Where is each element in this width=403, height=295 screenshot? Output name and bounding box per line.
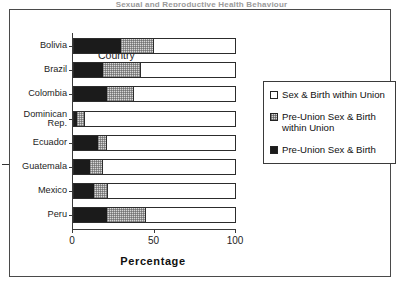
legend-item[interactable]: Pre-Union Sex & Birth within Union <box>270 111 390 133</box>
bar-segment-pre-union-sex-and-birth <box>74 184 94 198</box>
category-label: Dominican Rep. <box>15 109 67 128</box>
bar-row[interactable]: Bolivia <box>73 38 236 54</box>
stacked-bar[interactable] <box>73 135 236 151</box>
legend-swatch-icon <box>270 91 278 99</box>
bar-row[interactable]: Colombia <box>73 86 236 102</box>
category-label: Colombia <box>28 90 67 100</box>
x-tick-label: 100 <box>227 235 244 246</box>
bar-row[interactable]: Peru <box>73 207 236 223</box>
x-tick-label: 50 <box>148 235 159 246</box>
x-axis-title: Percentage <box>120 255 185 267</box>
stacked-bar[interactable] <box>73 159 236 175</box>
legend-label: Pre-Union Sex & Birth within Union <box>282 111 376 133</box>
chart-frame: Country BoliviaBrazilColombiaDominican R… <box>9 9 391 277</box>
stacked-bar[interactable] <box>73 86 236 102</box>
bar-segment-pre-union-sex-and-birth <box>74 160 90 174</box>
category-label: Ecuador <box>33 138 67 148</box>
bar-segment-pre-union-sex-and-birth-within-union <box>94 184 109 198</box>
bar-segment-pre-union-sex-and-birth-within-union <box>107 208 146 222</box>
stacked-bar[interactable] <box>73 207 236 223</box>
legend-swatch-icon <box>270 113 278 121</box>
bar-segment-pre-union-sex-and-birth-within-union <box>107 87 135 101</box>
stacked-bar[interactable] <box>73 111 236 127</box>
x-tick-label: 0 <box>69 235 75 246</box>
bar-segment-pre-union-sex-and-birth-within-union <box>98 136 106 150</box>
plot-area: Country BoliviaBrazilColombiaDominican R… <box>72 33 244 229</box>
bar-segment-pre-union-sex-and-birth-within-union <box>121 39 154 53</box>
legend-label: Pre-Union Sex & Birth <box>282 144 376 155</box>
bar-row[interactable]: Dominican Rep. <box>73 111 236 127</box>
stacked-bar[interactable] <box>73 62 236 78</box>
legend-swatch-icon <box>270 146 278 154</box>
bar-segment-pre-union-sex-and-birth <box>74 39 121 53</box>
bar-segment-pre-union-sex-and-birth-within-union <box>90 160 103 174</box>
stacked-bar[interactable] <box>73 38 236 54</box>
chart-legend: Sex & Birth within UnionPre-Union Sex & … <box>263 81 396 164</box>
bar-row[interactable]: Ecuador <box>73 135 236 151</box>
bar-segment-pre-union-sex-and-birth <box>74 208 107 222</box>
bar-row[interactable]: Mexico <box>73 183 236 199</box>
x-tick <box>154 229 155 233</box>
category-label: Brazil <box>44 65 67 75</box>
bar-segment-pre-union-sex-and-birth-within-union <box>77 112 85 126</box>
figure-title: Sexual and Reproductive Health Behaviour <box>0 0 403 7</box>
stacked-bar[interactable] <box>73 183 236 199</box>
category-label: Guatemala <box>22 162 67 172</box>
category-label: Peru <box>48 211 67 221</box>
bar-segment-pre-union-sex-and-birth <box>74 136 98 150</box>
category-label: Bolivia <box>40 41 67 51</box>
legend-item[interactable]: Pre-Union Sex & Birth <box>270 144 390 155</box>
bar-segment-pre-union-sex-and-birth-within-union <box>103 63 140 77</box>
bar-row[interactable]: Brazil <box>73 62 236 78</box>
bar-segment-pre-union-sex-and-birth <box>74 63 103 77</box>
x-tick <box>235 229 236 233</box>
legend-item[interactable]: Sex & Birth within Union <box>270 89 390 100</box>
legend-label: Sex & Birth within Union <box>282 89 385 100</box>
category-label: Mexico <box>38 186 67 196</box>
bar-row[interactable]: Guatemala <box>73 159 236 175</box>
bar-segment-pre-union-sex-and-birth <box>74 87 107 101</box>
x-tick <box>72 229 73 233</box>
